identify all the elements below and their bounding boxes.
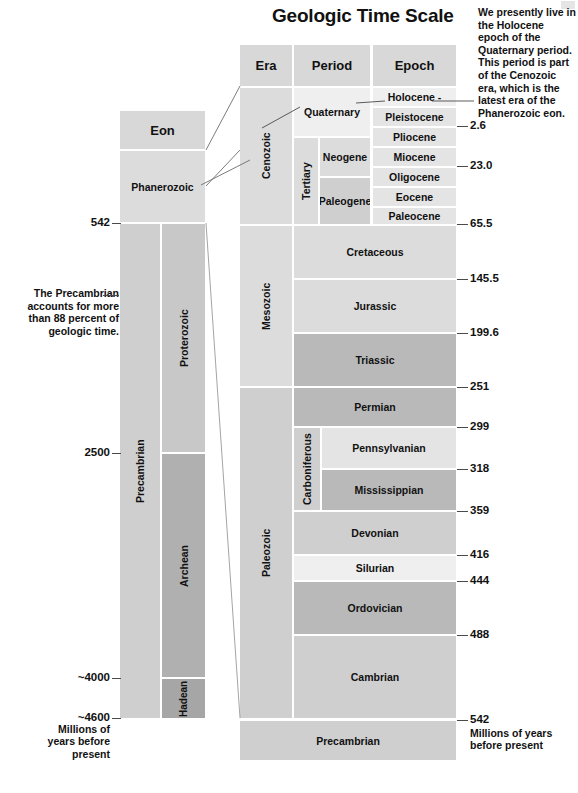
left-tick-line-4600: [112, 718, 121, 719]
right-tick-line-11: [457, 635, 468, 636]
epoch-pliocene[interactable]: Pliocene: [373, 128, 456, 146]
right-tick-23-0: 23.0: [470, 159, 492, 171]
eon-column-header: Eon: [120, 111, 205, 149]
period-devonian[interactable]: Devonian: [294, 512, 456, 554]
left-tick-line-2500: [112, 453, 121, 454]
period-mississippian[interactable]: Mississippian: [322, 470, 456, 510]
left-tick-4600: ~4600: [40, 711, 110, 723]
eon-precambrian[interactable]: Precambrian: [120, 224, 160, 718]
period-quaternary[interactable]: Quaternary: [294, 88, 370, 136]
epoch-miocene[interactable]: Miocene: [373, 148, 456, 166]
right-tick-line-1: [457, 166, 468, 167]
eon-subdivision-proterozoic[interactable]: Proterozoic: [162, 224, 205, 452]
epoch-paleocene[interactable]: Paleocene: [373, 208, 456, 224]
right-tick-65-5: 65.5: [470, 217, 492, 229]
right-tick-488: 488: [470, 628, 489, 640]
right-tick-line-5: [457, 387, 468, 388]
right-tick-line-12: [457, 720, 468, 721]
period-pennsylvanian[interactable]: Pennsylvanian: [322, 428, 456, 468]
period-ordovician[interactable]: Ordovician: [294, 582, 456, 634]
right-tick-line-4: [457, 333, 468, 334]
right-tick-416: 416: [470, 548, 489, 560]
epoch-holocene[interactable]: Holocene -: [373, 88, 456, 106]
epoch-column-header: Epoch: [373, 45, 456, 86]
period-carboniferous[interactable]: Carboniferous: [294, 428, 320, 510]
period-silurian[interactable]: Silurian: [294, 556, 456, 580]
eon-subdivision-hadean[interactable]: Hadean: [162, 679, 205, 718]
right-tick-line-0: [457, 126, 468, 127]
period-triassic[interactable]: Triassic: [294, 334, 456, 386]
period-column-header: Period: [294, 45, 370, 86]
era-mesozoic[interactable]: Mesozoic: [240, 226, 292, 386]
left-tick-2500: 2500: [40, 446, 110, 458]
right-tick-359: 359: [470, 504, 489, 516]
right-tick-199-6: 199.6: [470, 326, 499, 338]
right-tick-line-7: [457, 469, 468, 470]
right-tick-line-6: [457, 427, 468, 428]
left-tick-line-542: [112, 223, 121, 224]
left-tick-4000: ~4000: [40, 671, 110, 683]
period-jurassic[interactable]: Jurassic: [294, 280, 456, 332]
period-neogene[interactable]: Neogene: [320, 138, 370, 176]
left-axis-caption: Millions of years before present: [40, 723, 110, 760]
right-tick-318: 318: [470, 462, 489, 474]
left-tick-line-4000: [112, 678, 121, 679]
right-tick-542: 542: [470, 713, 489, 725]
right-tick-line-10: [457, 581, 468, 582]
right-tick-145-5: 145.5: [470, 272, 499, 284]
period-cambrian[interactable]: Cambrian: [294, 636, 456, 718]
right-axis-caption: Millions of years before present: [470, 727, 560, 752]
right-tick-2-6: 2.6: [470, 119, 486, 131]
right-tick-299: 299: [470, 420, 489, 432]
period-paleogene[interactable]: Paleogene: [320, 178, 370, 224]
epoch-oligocene[interactable]: Oligocene: [373, 168, 456, 186]
era-paleozoic[interactable]: Paleozoic: [240, 388, 292, 718]
epoch-eocene[interactable]: Eocene: [373, 188, 456, 206]
page-title: Geologic Time Scale: [272, 5, 454, 27]
right-tick-line-9: [457, 555, 468, 556]
holocene-note: We presently live in the Holocene epoch …: [478, 6, 576, 119]
era-column-header: Era: [240, 45, 292, 86]
precambrian-note-leader: [103, 295, 119, 296]
left-tick-542: 542: [40, 216, 110, 228]
right-tick-444: 444: [470, 574, 489, 586]
era-cenozoic[interactable]: Cenozoic: [240, 88, 292, 224]
epoch-pleistocene[interactable]: Pleistocene: [373, 108, 456, 126]
period-cretaceous[interactable]: Cretaceous: [294, 226, 456, 278]
right-tick-line-2: [457, 224, 468, 225]
period-tertiary[interactable]: Tertiary: [294, 138, 318, 224]
eon-phanerozoic[interactable]: Phanerozoic: [120, 151, 205, 222]
right-tick-251: 251: [470, 380, 489, 392]
right-tick-line-3: [457, 279, 468, 280]
period-precambrian[interactable]: Precambrian: [240, 721, 456, 760]
right-tick-line-8: [457, 511, 468, 512]
eon-subdivision-archean[interactable]: Archean: [162, 454, 205, 677]
period-permian[interactable]: Permian: [294, 388, 456, 426]
